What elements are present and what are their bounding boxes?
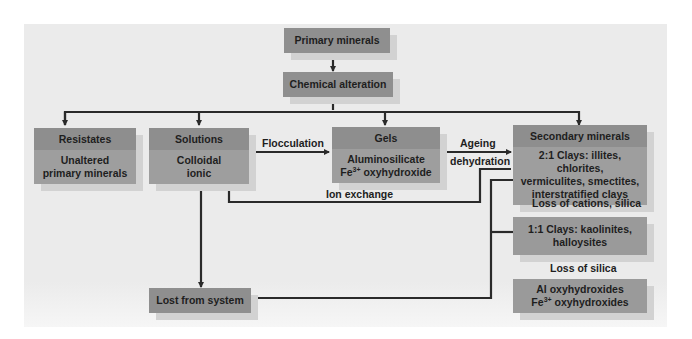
- gels-node: Gels Aluminosilicate Fe3+ oxyhydroxide: [332, 127, 440, 183]
- clays-1-1-line1: 1:1 Clays: kaolinites,: [517, 223, 643, 236]
- solutions-node: Solutions Colloidal ionic: [149, 128, 249, 184]
- gels-body: Aluminosilicate Fe3+ oxyhydroxide: [332, 149, 440, 183]
- primary-minerals-label: Primary minerals: [294, 34, 379, 46]
- secondary-minerals-node: Secondary minerals 2:1 Clays: illites, c…: [513, 125, 647, 205]
- dehydration-label: dehydration: [450, 155, 510, 167]
- gels-oxyhydroxide: oxyhydroxide: [361, 166, 432, 178]
- clays-1-1-node: 1:1 Clays: kaolinites, halloysites: [513, 217, 647, 255]
- resistates-body-line2: primary minerals: [36, 167, 134, 180]
- chemical-alteration-node: Chemical alteration: [283, 72, 393, 97]
- gels-title: Gels: [332, 127, 440, 149]
- oxy-suffix: oxyhydroxides: [552, 296, 629, 308]
- loss-silica-label: Loss of silica: [550, 262, 617, 274]
- gels-fe: Fe: [340, 166, 352, 178]
- loss-cations-silica-label: Loss of cations, silica: [532, 197, 641, 209]
- flocculation-label: Flocculation: [262, 137, 324, 149]
- solutions-body-line2: ionic: [151, 167, 247, 180]
- lost-from-system-label: Lost from system: [156, 294, 244, 306]
- lost-from-system-node: Lost from system: [149, 288, 251, 313]
- oxyhydroxides-node: Al oxyhydroxides Fe3+ oxyhydroxides: [513, 279, 647, 313]
- primary-minerals-node: Primary minerals: [284, 28, 390, 53]
- solutions-body: Colloidal ionic: [149, 150, 249, 184]
- secondary-body-line1: 2:1 Clays: illites, chlorites,: [515, 149, 645, 175]
- solutions-body-line1: Colloidal: [151, 154, 247, 167]
- resistates-node: Resistates Unaltered primary minerals: [34, 128, 136, 184]
- ageing-label: Ageing: [460, 137, 496, 149]
- secondary-body-line2: vermiculites, smectites,: [515, 175, 645, 188]
- resistates-title: Resistates: [34, 128, 136, 150]
- clays-1-1-line2: halloysites: [517, 236, 643, 249]
- chemical-alteration-label: Chemical alteration: [290, 78, 387, 90]
- gels-body-line1: Aluminosilicate: [334, 153, 438, 166]
- secondary-minerals-title: Secondary minerals: [513, 125, 647, 147]
- solutions-title: Solutions: [149, 128, 249, 150]
- resistates-body-line1: Unaltered: [36, 154, 134, 167]
- oxy-fe: Fe: [531, 296, 543, 308]
- gels-fe-charge: 3+: [353, 166, 361, 173]
- oxyhydroxides-line1: Al oxyhydroxides: [517, 283, 643, 296]
- gels-body-line2: Fe3+ oxyhydroxide: [334, 166, 438, 179]
- resistates-body: Unaltered primary minerals: [34, 150, 136, 184]
- ion-exchange-label: Ion exchange: [326, 188, 393, 200]
- oxyhydroxides-line2: Fe3+ oxyhydroxides: [517, 296, 643, 309]
- oxy-fe-charge: 3+: [544, 296, 552, 303]
